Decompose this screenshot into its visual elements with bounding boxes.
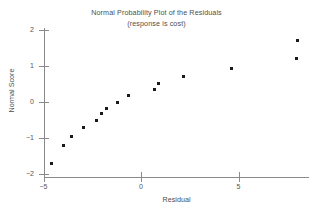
data-point [95, 119, 98, 122]
x-tick-label: 5 [227, 183, 251, 190]
x-tick-label: 0 [129, 183, 153, 190]
x-tick-mark [239, 172, 240, 182]
data-point [157, 82, 160, 85]
data-point [70, 135, 73, 138]
x-tick-mark [141, 172, 142, 182]
data-point [105, 107, 108, 110]
y-tick-mark [39, 138, 49, 139]
y-tick-mark [39, 30, 49, 31]
data-point [127, 94, 130, 97]
plot-area: 210−1−2 −505 [0, 0, 313, 212]
data-point [62, 144, 65, 147]
y-tick-mark [39, 66, 49, 67]
data-point [50, 162, 53, 165]
data-point [116, 101, 119, 104]
y-tick-mark [39, 102, 49, 103]
data-point [100, 112, 103, 115]
y-tick-label: −1 [12, 134, 34, 141]
normal-probability-plot-figure: Normal Probability Plot of the Residuals… [0, 0, 313, 212]
data-point [182, 75, 185, 78]
data-point [295, 57, 298, 60]
data-point [82, 126, 85, 129]
data-point [230, 67, 233, 70]
data-point [296, 39, 299, 42]
x-tick-label: −5 [32, 183, 56, 190]
x-tick-mark [44, 172, 45, 182]
x-axis-title: Residual [44, 195, 309, 204]
x-axis-line [44, 177, 309, 178]
y-tick-label: 2 [12, 26, 34, 33]
y-tick-label: −2 [12, 170, 34, 177]
y-axis-title: Normal Score [7, 56, 16, 126]
data-point [153, 88, 156, 91]
y-axis-line [44, 28, 45, 178]
